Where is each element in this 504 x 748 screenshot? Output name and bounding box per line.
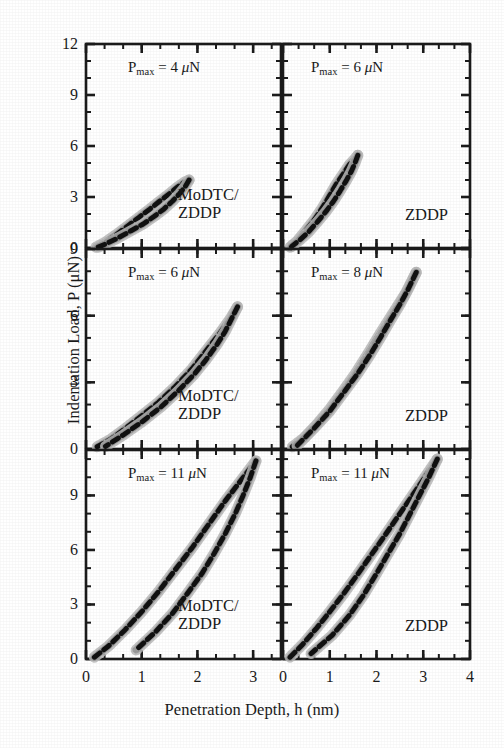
x-tick-label: 0 <box>270 669 296 685</box>
curve-loading <box>290 155 358 247</box>
sample-label-r2c1: MoDTC/ZDDP <box>178 387 239 424</box>
curve-halo-loading <box>292 272 416 446</box>
pmax-annotation-r1c1: Pmax = 4 μN <box>128 60 200 77</box>
curve-halo-loading <box>97 307 237 447</box>
y-tick-label: 3 <box>40 189 78 205</box>
curve-halo-unloading <box>291 155 357 246</box>
curve-halo-unloading <box>297 272 416 445</box>
x-tick-label: 1 <box>129 669 155 685</box>
y-tick-label: 3 <box>40 596 78 612</box>
curve-halo-unloading <box>106 307 238 447</box>
y-tick-label: 6 <box>40 542 78 558</box>
y-tick-label: 0 <box>40 651 78 667</box>
curve-unloading <box>291 155 357 246</box>
nanoindentation-figure: Indentation Load, P (μN) Penetration Dep… <box>0 0 504 748</box>
pmax-annotation-r2c1: Pmax = 6 μN <box>128 265 200 282</box>
sample-label-r2c2: ZDDP <box>405 407 448 425</box>
curve-halo-loading <box>96 180 189 247</box>
y-tick-label: 6 <box>40 138 78 154</box>
pmax-annotation-r2c2: Pmax = 8 μN <box>311 265 383 282</box>
x-tick-label: 3 <box>410 669 436 685</box>
curve-unloading <box>106 307 238 447</box>
y-tick-label: 0 <box>40 441 78 457</box>
x-tick-label: 4 <box>457 669 483 685</box>
pmax-annotation-r3c1: Pmax = 11 μN <box>128 466 207 483</box>
x-tick-label: 3 <box>240 669 266 685</box>
curve-unloading <box>98 180 189 247</box>
sample-label-r1c2: ZDDP <box>405 206 448 224</box>
y-tick-label: 12 <box>40 36 78 52</box>
x-tick-label: 1 <box>317 669 343 685</box>
y-tick-label: 9 <box>40 487 78 503</box>
sample-label-r3c1: MoDTC/ZDDP <box>178 597 239 634</box>
x-tick-label: 0 <box>73 669 99 685</box>
y-tick-label: 9 <box>40 87 78 103</box>
pmax-annotation-r3c2: Pmax = 11 μN <box>311 466 390 483</box>
pmax-annotation-r1c2: Pmax = 6 μN <box>311 60 383 77</box>
y-tick-label: 3 <box>40 374 78 390</box>
curve-loading <box>96 180 189 247</box>
y-tick-label: 9 <box>40 241 78 257</box>
curve-unloading <box>297 272 416 445</box>
sample-label-r1c1: MoDTC/ZDDP <box>178 186 239 223</box>
x-axis-title: Penetration Depth, h (nm) <box>0 700 504 720</box>
curve-halo-unloading <box>98 180 189 247</box>
sample-label-r3c2: ZDDP <box>405 617 448 635</box>
curve-loading <box>97 307 237 447</box>
x-tick-label: 2 <box>364 669 390 685</box>
x-tick-label: 2 <box>184 669 210 685</box>
curve-loading <box>292 272 416 446</box>
y-tick-label: 6 <box>40 308 78 324</box>
curve-halo-loading <box>290 155 358 247</box>
